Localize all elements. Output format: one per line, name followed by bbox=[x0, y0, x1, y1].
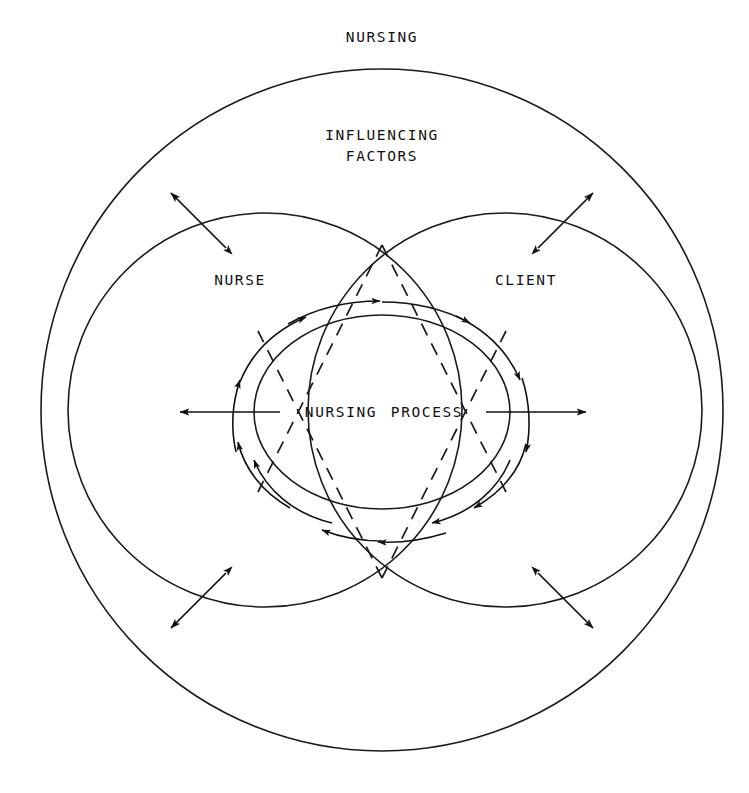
label-client: CLIENT bbox=[495, 272, 557, 288]
nursing-process-orbit-arrows bbox=[233, 301, 529, 542]
orbit-arrow-right bbox=[522, 378, 529, 452]
double-arrow-top-left bbox=[171, 193, 226, 248]
influencing-factors-line2: FACTORS bbox=[346, 148, 418, 164]
orbit-arrow-top-right bbox=[382, 302, 470, 323]
nursing-process-ellipse bbox=[254, 315, 510, 509]
double-arrow-top-right bbox=[538, 193, 593, 248]
influencing-factors-line1: INFLUENCING bbox=[325, 127, 439, 143]
label-nurse: NURSE bbox=[214, 272, 266, 288]
orbit-arrow-bottom bbox=[378, 533, 446, 542]
nursing-model-diagram: NURSING INFLUENCING FACTORS NURSE CLIENT… bbox=[0, 0, 749, 793]
orbit-arrow-left bbox=[233, 380, 240, 452]
dashed-intersection-shape bbox=[258, 245, 506, 578]
outer-nursing-circle bbox=[41, 69, 723, 751]
diagram-canvas: NURSING INFLUENCING FACTORS NURSE CLIENT… bbox=[0, 0, 749, 793]
double-arrow-bottom-right bbox=[538, 573, 593, 628]
orbit-arrow-upper-left bbox=[240, 317, 306, 382]
title-nursing: NURSING bbox=[346, 29, 418, 45]
orbit-arrow-upper-right bbox=[456, 316, 520, 380]
orbit-arrow-bottom-left bbox=[322, 530, 382, 541]
orbit-arrow-bottom-left-inner bbox=[254, 460, 332, 523]
influencing-factor-arrows bbox=[171, 193, 593, 628]
label-nursing-process-left: NURSING bbox=[305, 404, 377, 420]
label-nursing-process-right: PROCESS bbox=[391, 404, 463, 420]
